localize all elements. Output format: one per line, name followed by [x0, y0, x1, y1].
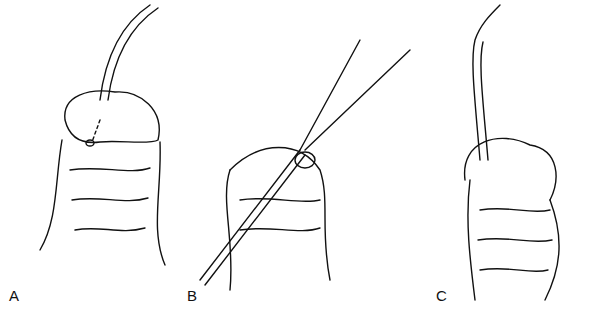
illustration — [0, 0, 602, 310]
panel-label-c: C — [436, 287, 447, 304]
panel-b-drawing — [200, 40, 410, 290]
panel-label-b: B — [187, 287, 197, 304]
panel-a-drawing — [40, 5, 165, 265]
panel-c-drawing — [465, 5, 559, 300]
panel-label-a: A — [9, 287, 19, 304]
